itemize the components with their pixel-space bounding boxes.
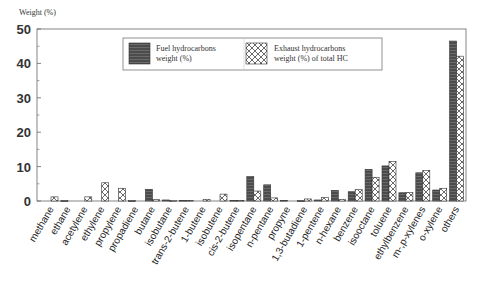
bar-fuel — [61, 201, 68, 202]
legend-label-fuel-1: Fuel hydrocarbons — [156, 44, 216, 53]
bar-exhaust — [406, 192, 413, 201]
bar-fuel — [129, 201, 136, 202]
bar-fuel — [179, 200, 186, 201]
bar-exhaust — [372, 177, 379, 201]
bar-exhaust — [389, 161, 396, 201]
bar-exhaust — [440, 188, 447, 201]
y-tick-label: 40 — [17, 56, 31, 71]
bar-exhaust — [102, 183, 109, 201]
bar-fuel — [331, 190, 338, 201]
bar-exhaust — [355, 190, 362, 201]
bar-fuel — [145, 189, 152, 201]
legend-swatch-exhaust — [246, 43, 267, 64]
bar-fuel — [247, 177, 254, 201]
bar-exhaust — [186, 200, 193, 201]
bar-exhaust — [338, 199, 345, 201]
legend-label-exhaust-1: Exhaust hydrocarbons — [274, 44, 345, 53]
bar-exhaust — [203, 199, 210, 201]
bar-fuel — [450, 41, 457, 201]
bar-fuel — [162, 200, 169, 201]
bar-exhaust — [423, 170, 430, 201]
bar-exhaust — [152, 200, 159, 201]
bar-exhaust — [220, 194, 227, 201]
bar-exhaust — [119, 188, 126, 201]
bar-fuel — [399, 193, 406, 201]
bar-exhaust — [457, 56, 464, 201]
y-tick-label: 20 — [17, 125, 31, 140]
bar-fuel — [298, 201, 305, 202]
bar-fuel — [264, 185, 271, 201]
bar-exhaust — [254, 191, 261, 201]
legend-label-exhaust-2: weight (%) of total HC — [274, 54, 348, 63]
x-axis-labels: methaneethaneacetyleneethylenepropylenep… — [27, 204, 462, 266]
bar-exhaust — [271, 198, 278, 201]
bar-fuel — [382, 166, 389, 201]
bar-exhaust — [321, 198, 328, 201]
bar-fuel — [230, 200, 237, 201]
bar-exhaust — [305, 199, 312, 201]
bar-fuel — [314, 200, 321, 201]
bar-fuel — [416, 173, 423, 201]
bar-exhaust — [85, 197, 92, 201]
bar-fuel — [348, 192, 355, 201]
legend: Fuel hydrocarbons weight (%) Exhaust hyd… — [123, 38, 382, 70]
bar-exhaust — [237, 200, 244, 201]
y-tick-label: 50 — [17, 22, 31, 37]
legend-swatch-fuel — [129, 43, 150, 64]
bar-exhaust — [51, 197, 58, 201]
bar-chart: 01020304050 methaneethaneacetyleneethyle… — [0, 0, 484, 282]
y-tick-label: 30 — [17, 91, 31, 106]
bar-fuel — [433, 190, 440, 201]
y-tick-label: 0 — [24, 194, 31, 209]
bar-exhaust — [169, 201, 176, 202]
bar-fuel — [281, 200, 288, 201]
bar-fuel — [365, 169, 372, 201]
legend-label-fuel-2: weight (%) — [156, 54, 192, 63]
y-tick-label: 10 — [17, 160, 31, 175]
